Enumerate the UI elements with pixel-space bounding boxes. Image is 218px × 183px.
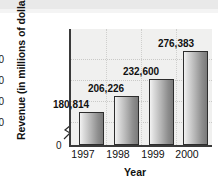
y-tick-label-300000: 300,000 <box>0 55 4 65</box>
y-tick-label-150000: 150,000 <box>0 118 4 128</box>
bar-value-label-1997: 180,814 <box>49 99 93 110</box>
bar-value-label-2000: 276,383 <box>153 38 199 49</box>
gridline-vertical <box>141 29 142 145</box>
x-axis-title: Year <box>60 166 210 178</box>
x-tick-label-2000: 2000 <box>164 148 210 160</box>
bar-value-label-1999: 232,600 <box>119 66 163 77</box>
scan-top-band-fade <box>0 9 218 13</box>
scan-top-band <box>0 0 218 9</box>
bar-1999 <box>149 79 174 145</box>
y-axis-title: Revenue (in millions of dollars) <box>13 0 29 140</box>
bar-2000 <box>183 51 208 145</box>
bar-1997 <box>79 112 104 145</box>
bar-1998 <box>114 96 139 145</box>
bar-value-label-1998: 206,226 <box>84 83 128 94</box>
bar-chart-figure: Revenue (in millions of dollars) 300,000… <box>0 0 218 183</box>
y-tick-label-200000: 200,000 <box>0 97 4 107</box>
y-tick-label-250000: 250,000 <box>0 76 4 86</box>
